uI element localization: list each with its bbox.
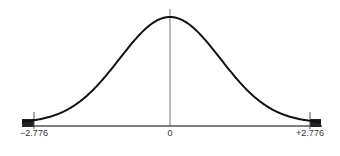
label-right-critical: +2.776 bbox=[296, 128, 324, 138]
distribution-diagram: −2.776 0 +2.776 bbox=[0, 0, 340, 156]
bell-curve bbox=[22, 17, 321, 122]
label-left-critical: −2.776 bbox=[20, 128, 48, 138]
label-center: 0 bbox=[167, 128, 172, 138]
